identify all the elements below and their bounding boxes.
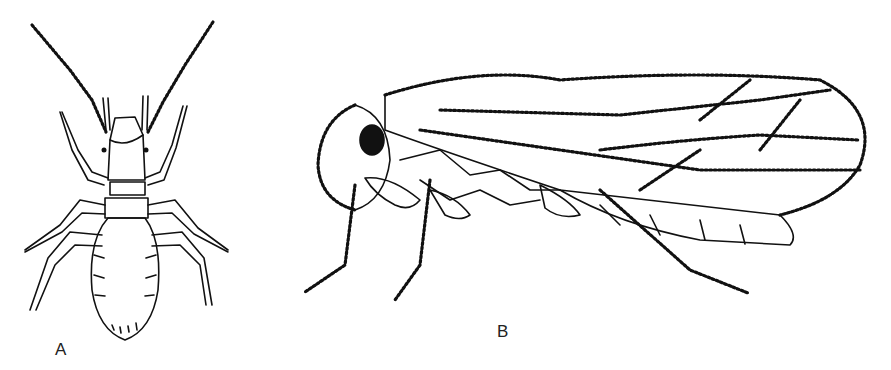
insect-a-drawing	[25, 22, 228, 340]
figure-illustration	[0, 0, 891, 370]
panel-label-a: A	[55, 340, 66, 360]
panel-label-b: B	[497, 322, 508, 342]
insect-b-drawing	[305, 75, 865, 300]
